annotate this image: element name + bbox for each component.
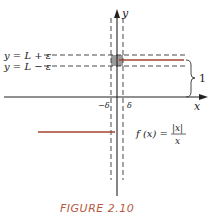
figure-caption: FIGURE 2.10	[60, 202, 134, 215]
upper-band-label: y = L + ε	[3, 50, 51, 61]
x-axis-label: x	[194, 100, 201, 113]
brace-value-label: 1	[199, 72, 206, 85]
neg-delta-label: −δ	[98, 101, 110, 110]
x-axis-arrow-icon	[199, 94, 208, 100]
y-axis-arrow-icon	[114, 9, 120, 18]
pos-delta-label: δ	[127, 101, 132, 110]
function-numerator: |x|	[172, 123, 183, 134]
function-lhs: f (x) =	[135, 128, 168, 139]
figure-2-10: y x y = L + ε y = L − ε −δ δ 1 f (x) = |…	[0, 0, 212, 218]
y-axis-label: y	[121, 7, 129, 20]
lower-band-label: y = L − ε	[3, 61, 51, 72]
function-denominator: x	[175, 136, 180, 146]
brace-icon	[186, 60, 195, 97]
